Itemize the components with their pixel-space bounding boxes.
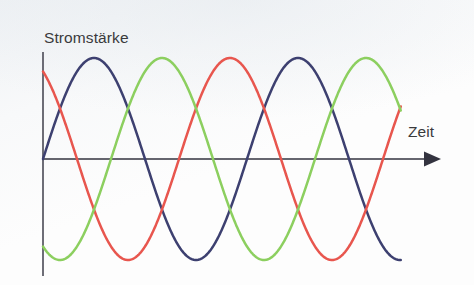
y-axis-label: Stromstärke	[44, 30, 129, 46]
x-axis-label: Zeit	[408, 124, 434, 140]
figure-canvas: Stromstärke Zeit	[0, 0, 474, 285]
arrow-right-icon	[424, 152, 441, 167]
